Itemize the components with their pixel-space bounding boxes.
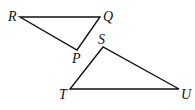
vertex-label-p: P — [71, 51, 81, 66]
vertex-label-s: S — [98, 32, 105, 47]
vertex-label-q: Q — [103, 9, 113, 24]
vertex-label-u: U — [181, 87, 192, 102]
vertex-label-t: T — [59, 87, 68, 102]
triangle-stu: S T U — [59, 32, 192, 102]
vertex-label-r: R — [7, 9, 17, 24]
geometry-diagram: R Q P S T U — [0, 0, 195, 110]
triangle-pqr-outline — [20, 17, 100, 50]
triangle-stu-outline — [70, 47, 179, 89]
